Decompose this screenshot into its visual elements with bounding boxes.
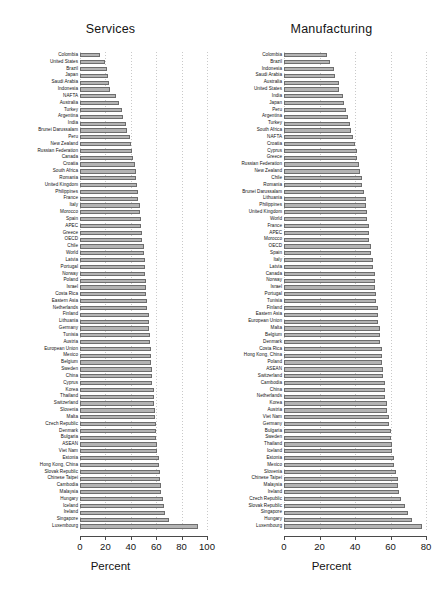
bar xyxy=(284,108,346,112)
category-label: Bulgaria xyxy=(0,434,78,441)
category-label: Korea xyxy=(0,387,78,394)
bar-row: Colombia xyxy=(221,52,442,59)
plot-area-services: ColombiaUnited StatesBrazilJapanSaudi Ar… xyxy=(0,52,221,530)
bar-row: Eastern Asia xyxy=(221,311,442,318)
bar-row: Chile xyxy=(221,175,442,182)
bar-fill xyxy=(284,238,369,242)
bar xyxy=(284,279,375,283)
bar xyxy=(284,367,383,371)
bar xyxy=(80,101,119,105)
bar-row: Philippines xyxy=(221,202,442,209)
bar-fill xyxy=(80,299,147,303)
bar xyxy=(80,436,156,440)
bar-fill xyxy=(284,285,375,289)
bar-row: World xyxy=(221,216,442,223)
bar-row: Chinese Taipei xyxy=(0,475,221,482)
bar xyxy=(284,333,380,337)
bar-row: Peru xyxy=(0,134,221,141)
bar-fill xyxy=(284,67,334,71)
category-label: Czech Republic xyxy=(0,421,78,428)
bar-fill xyxy=(284,408,387,412)
category-label: Indonesia xyxy=(221,66,282,73)
bar-row: United Kingdom xyxy=(221,209,442,216)
category-label: Saudi Arabia xyxy=(221,72,282,79)
axis-tick xyxy=(355,536,356,540)
category-label: Greece xyxy=(221,154,282,161)
bar xyxy=(80,128,127,132)
bar xyxy=(80,415,155,419)
bar xyxy=(80,490,161,494)
bar xyxy=(80,395,154,399)
bar xyxy=(80,401,154,405)
bar xyxy=(80,176,136,180)
bar-fill xyxy=(80,149,132,153)
axis-tick xyxy=(426,536,427,540)
bar-fill xyxy=(284,210,367,214)
bar-fill xyxy=(284,94,343,98)
category-label: Germany xyxy=(0,325,78,332)
bar-fill xyxy=(80,401,154,405)
bar-fill xyxy=(284,169,360,173)
bar-row: Iceland xyxy=(221,448,442,455)
bar xyxy=(284,67,334,71)
category-label: Belgium xyxy=(221,332,282,339)
category-label: Spain xyxy=(0,216,78,223)
bar-row: Norway xyxy=(0,271,221,278)
bar-row: Malta xyxy=(0,414,221,421)
category-label: Colombia xyxy=(0,52,78,59)
category-label: Switzerland xyxy=(221,373,282,380)
category-label: Brazil xyxy=(221,59,282,66)
bar xyxy=(80,272,145,276)
bar xyxy=(80,299,147,303)
bar-row: Malta xyxy=(221,325,442,332)
bar-row: Netherlands xyxy=(221,393,442,400)
bar-row: Singapore xyxy=(221,509,442,516)
bar-fill xyxy=(80,320,149,324)
category-label: Viet Nam xyxy=(221,414,282,421)
bar-fill xyxy=(284,449,392,453)
x-axis-manufacturing: 020406080Percent xyxy=(221,536,442,576)
category-label: Eastern Asia xyxy=(0,298,78,305)
category-label: Brunei Darussalam xyxy=(221,189,282,196)
bar-fill xyxy=(80,374,152,378)
bar xyxy=(284,320,378,324)
bar xyxy=(80,326,149,330)
bar-row: Spain xyxy=(0,216,221,223)
category-label: European Union xyxy=(0,346,78,353)
bar xyxy=(284,306,378,310)
category-label: Japan xyxy=(221,100,282,107)
bar xyxy=(284,224,369,228)
bar xyxy=(284,477,398,481)
bar-row: Morocco xyxy=(221,236,442,243)
figure-root: Services ColombiaUnited StatesBrazilJapa… xyxy=(0,0,442,614)
bar-fill xyxy=(284,442,392,446)
bar-fill xyxy=(80,122,126,126)
category-label: Argentina xyxy=(221,113,282,120)
bar-fill xyxy=(284,347,382,351)
bar xyxy=(80,354,151,358)
axis-tick-label: 100 xyxy=(199,541,215,552)
bar xyxy=(284,490,399,494)
bar xyxy=(284,231,369,235)
bar-fill xyxy=(80,463,159,467)
bar-fill xyxy=(80,333,150,337)
panel-title-services: Services xyxy=(0,22,221,36)
bar-row: Korea xyxy=(221,400,442,407)
bar xyxy=(284,401,387,405)
bar-fill xyxy=(80,94,116,98)
bar xyxy=(80,67,107,71)
bar-row: Philippines xyxy=(0,189,221,196)
bar-fill xyxy=(80,470,160,474)
bar xyxy=(284,190,364,194)
category-label: South Africa xyxy=(221,127,282,134)
category-label: Austria xyxy=(221,407,282,414)
bar-row: Croatia xyxy=(0,161,221,168)
bar-row: Turkey xyxy=(0,107,221,114)
bar xyxy=(80,511,165,515)
bar xyxy=(284,142,355,146)
panel-manufacturing: Manufacturing ColombiaBrazilIndonesiaSau… xyxy=(221,0,442,614)
bar-rows-manufacturing: ColombiaBrazilIndonesiaSaudi ArabiaAustr… xyxy=(221,52,442,530)
bar-fill xyxy=(284,135,353,139)
category-label: Costa Rica xyxy=(221,346,282,353)
bar xyxy=(284,238,369,242)
